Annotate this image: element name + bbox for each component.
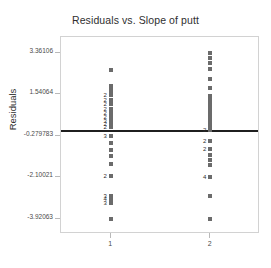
- y-axis-tick-mark: [55, 93, 60, 94]
- data-point: [109, 102, 113, 106]
- data-point: [109, 93, 113, 97]
- x-axis-tick-mark: [110, 233, 111, 238]
- data-point: [109, 98, 113, 102]
- data-point: [109, 125, 113, 129]
- data-point: [208, 158, 212, 162]
- x-axis-tick: 1: [110, 233, 111, 234]
- plot-area: 222222322323432224: [60, 36, 259, 233]
- data-point: [208, 153, 212, 157]
- y-axis-tick: -0.279783: [0, 135, 60, 136]
- data-point: [208, 86, 212, 90]
- y-axis-tick-label: 1.54064: [30, 88, 54, 95]
- y-axis-tick-mark: [55, 52, 60, 53]
- data-point-count-label: 2: [103, 124, 107, 130]
- data-point: [208, 194, 212, 198]
- data-point-count-label: 3: [103, 200, 107, 206]
- data-point: [109, 162, 113, 166]
- data-point-count-label: 2: [203, 127, 207, 133]
- data-point: [208, 77, 212, 81]
- data-point: [208, 124, 212, 128]
- data-point: [109, 134, 113, 138]
- data-point: [208, 139, 212, 143]
- data-point: [208, 61, 212, 65]
- data-point: [109, 107, 113, 111]
- data-point: [208, 67, 212, 71]
- x-axis-tick-mark: [209, 233, 210, 238]
- y-axis-tick-label: -3.92063: [27, 213, 53, 220]
- chart-title: Residuals vs. Slope of putt: [0, 14, 271, 26]
- data-point: [208, 163, 212, 167]
- x-axis-tick-label: 2: [197, 240, 222, 247]
- reference-line: [61, 130, 258, 131]
- data-point: [109, 154, 113, 158]
- data-point: [109, 141, 113, 145]
- data-point: [208, 217, 212, 221]
- data-point: [109, 174, 113, 178]
- y-axis-tick-mark: [55, 218, 60, 219]
- y-axis-tick: -2.10021: [0, 176, 60, 177]
- data-point-count-label: 2: [103, 173, 107, 179]
- chart-figure: Residuals vs. Slope of putt Residuals 22…: [0, 0, 271, 268]
- data-point-count-label: 3: [103, 133, 107, 139]
- data-point: [109, 68, 113, 72]
- y-axis-tick: 1.54064: [0, 93, 60, 94]
- y-axis-tick: 3.36106: [0, 52, 60, 53]
- data-point: [208, 175, 212, 179]
- data-point: [109, 201, 113, 205]
- data-point-count-label: 4: [203, 174, 207, 180]
- data-point: [208, 51, 212, 55]
- y-axis-tick-label: -0.279783: [24, 130, 53, 137]
- y-axis-tick: -3.92063: [0, 218, 60, 219]
- data-point: [109, 217, 113, 221]
- y-axis-tick-mark: [55, 176, 60, 177]
- data-point: [208, 56, 212, 60]
- y-axis-tick-label: 3.36106: [30, 47, 54, 54]
- data-point: [208, 128, 212, 132]
- data-point: [109, 148, 113, 152]
- y-axis-tick-mark: [55, 135, 60, 136]
- x-axis-tick-label: 1: [98, 240, 123, 247]
- x-axis-tick: 2: [209, 233, 210, 234]
- data-point: [208, 147, 212, 151]
- data-point-count-label: 2: [203, 138, 207, 144]
- data-point-count-label: 2: [203, 146, 207, 152]
- y-axis-tick-label: -2.10021: [27, 171, 53, 178]
